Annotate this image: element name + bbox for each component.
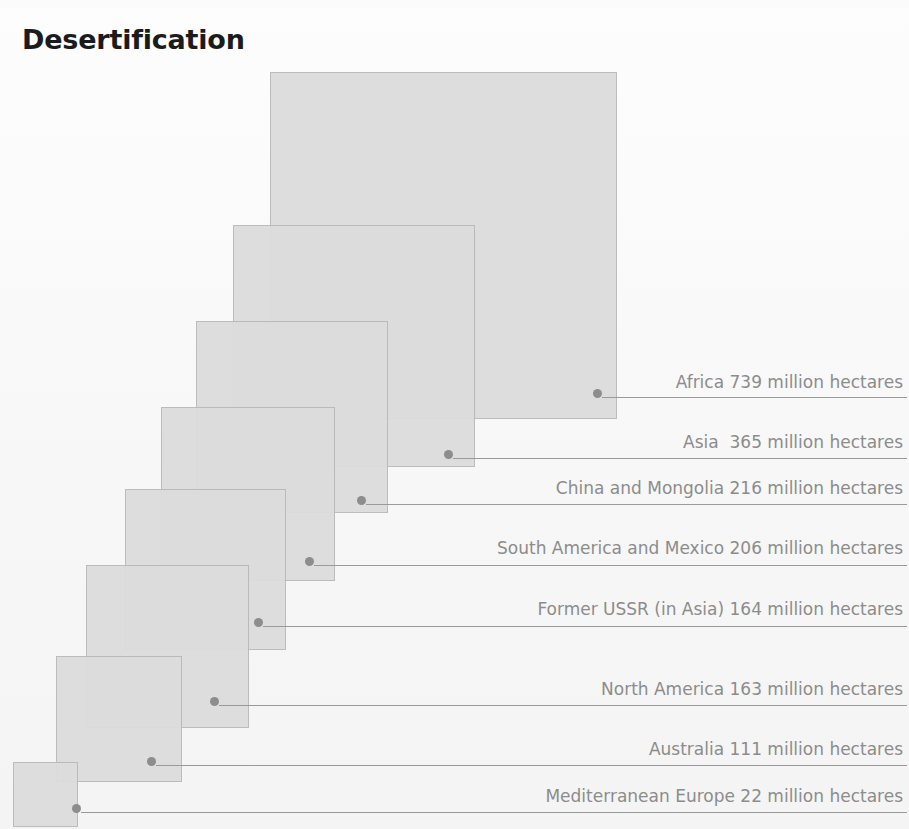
connector-dot-mediterranean-europe bbox=[72, 804, 81, 813]
leader-line-africa bbox=[602, 397, 907, 398]
label-africa: Africa 739 million hectares bbox=[676, 372, 903, 392]
square-mediterranean-europe bbox=[13, 762, 78, 827]
connector-dot-south-america-and-mexico bbox=[305, 557, 314, 566]
connector-dot-australia bbox=[147, 757, 156, 766]
leader-line-asia bbox=[453, 458, 907, 459]
label-south-america-and-mexico: South America and Mexico 206 million hec… bbox=[497, 538, 903, 558]
connector-dot-former-ussr-in-asia bbox=[254, 618, 263, 627]
connector-dot-asia bbox=[444, 450, 453, 459]
leader-line-australia bbox=[156, 765, 907, 766]
label-asia: Asia 365 million hectares bbox=[683, 432, 903, 452]
label-china-and-mongolia: China and Mongolia 216 million hectares bbox=[556, 478, 903, 498]
leader-line-north-america bbox=[219, 705, 907, 706]
page-title: Desertification bbox=[22, 24, 245, 55]
leader-line-south-america-and-mexico bbox=[314, 565, 907, 566]
label-north-america: North America 163 million hectares bbox=[601, 679, 903, 699]
leader-line-mediterranean-europe bbox=[81, 812, 907, 813]
leader-line-former-ussr-in-asia bbox=[263, 626, 907, 627]
connector-dot-africa bbox=[593, 389, 602, 398]
label-australia: Australia 111 million hectares bbox=[649, 739, 903, 759]
label-former-ussr-in-asia: Former USSR (in Asia) 164 million hectar… bbox=[537, 599, 903, 619]
leader-line-china-and-mongolia bbox=[366, 504, 907, 505]
label-mediterranean-europe: Mediterranean Europe 22 million hectares bbox=[545, 786, 903, 806]
connector-dot-north-america bbox=[210, 697, 219, 706]
connector-dot-china-and-mongolia bbox=[357, 496, 366, 505]
chart-canvas: Desertification Africa 739 million hecta… bbox=[0, 0, 909, 829]
